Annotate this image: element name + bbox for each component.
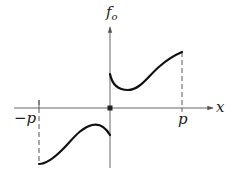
right-bound-label: p: [178, 110, 188, 128]
curve-positive-half: [110, 52, 182, 90]
left-bound-label: −p: [14, 109, 37, 127]
curve-negative-half: [39, 125, 110, 164]
origin-marker: [108, 106, 113, 111]
odd-extension-diagram: fo x −p p: [0, 0, 236, 177]
x-axis-label: x: [216, 98, 225, 116]
y-axis-label: fo: [105, 3, 118, 22]
